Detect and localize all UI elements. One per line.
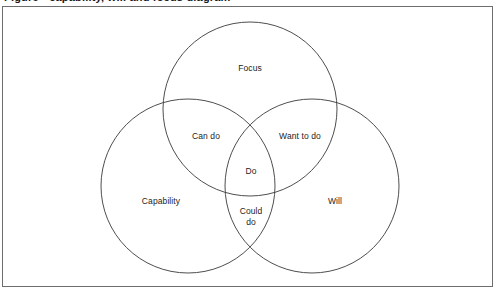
- venn-label-will-only: Will: [328, 196, 342, 207]
- venn-circle-will: [225, 99, 399, 273]
- venn-label-focus-capability: Can do: [192, 131, 220, 142]
- venn-label-focus-only: Focus: [238, 63, 262, 74]
- venn-label-focus-will: Want to do: [279, 131, 321, 142]
- venn-circles: [0, 0, 499, 294]
- venn-circle-capability: [101, 99, 275, 273]
- venn-label-capability-will: Coulddo: [231, 206, 271, 228]
- venn-diagram: Focus Capability Will Can do Want to do …: [0, 0, 499, 294]
- venn-label-focus-capability-will: Do: [245, 166, 256, 177]
- venn-label-capability-only: Capability: [142, 196, 180, 207]
